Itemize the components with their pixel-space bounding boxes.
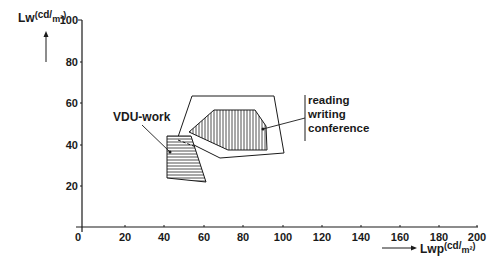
x-tick-label: 80	[237, 231, 249, 243]
y-ticks: 20 40 60 80 100	[60, 14, 82, 192]
y-tick-label: 80	[66, 56, 78, 68]
svg-text:reading: reading	[308, 94, 350, 106]
arrowhead-right-icon	[411, 246, 417, 251]
x-tick-label: 200	[468, 231, 486, 243]
x-tick-label: 40	[158, 231, 170, 243]
x-tick-label: 60	[198, 231, 210, 243]
x-tick-label: 100	[274, 231, 292, 243]
y-tick-label: 20	[66, 180, 78, 192]
svg-text:VDU-work: VDU-work	[113, 110, 171, 124]
x-ticks: 0 20 40 60 80 100 120 140 160 180 200	[75, 225, 486, 243]
x-tick-label: 20	[119, 231, 131, 243]
svg-text:conference: conference	[308, 122, 369, 134]
svg-text:Lw(cd/m²): Lw(cd/m²)	[18, 9, 66, 25]
annotation-vdu-work: VDU-work	[113, 110, 172, 154]
x-tick-label: 140	[352, 231, 370, 243]
area-reading-writing-conference	[189, 110, 267, 150]
axes	[76, 20, 478, 232]
x-tick-label: 120	[313, 231, 331, 243]
x-tick-label: 0	[75, 231, 81, 243]
svg-text:writing: writing	[307, 108, 346, 120]
y-axis-label: Lw(cd/m²)	[18, 9, 66, 62]
chart: 20 40 60 80 100 0 20 40 60 80 100 120 14…	[0, 0, 502, 264]
y-tick-label: 60	[66, 97, 78, 109]
arrowhead-up-icon	[44, 31, 49, 37]
area-vdu-work	[167, 136, 206, 182]
x-tick-label: 160	[391, 231, 409, 243]
y-tick-label: 40	[66, 139, 78, 151]
